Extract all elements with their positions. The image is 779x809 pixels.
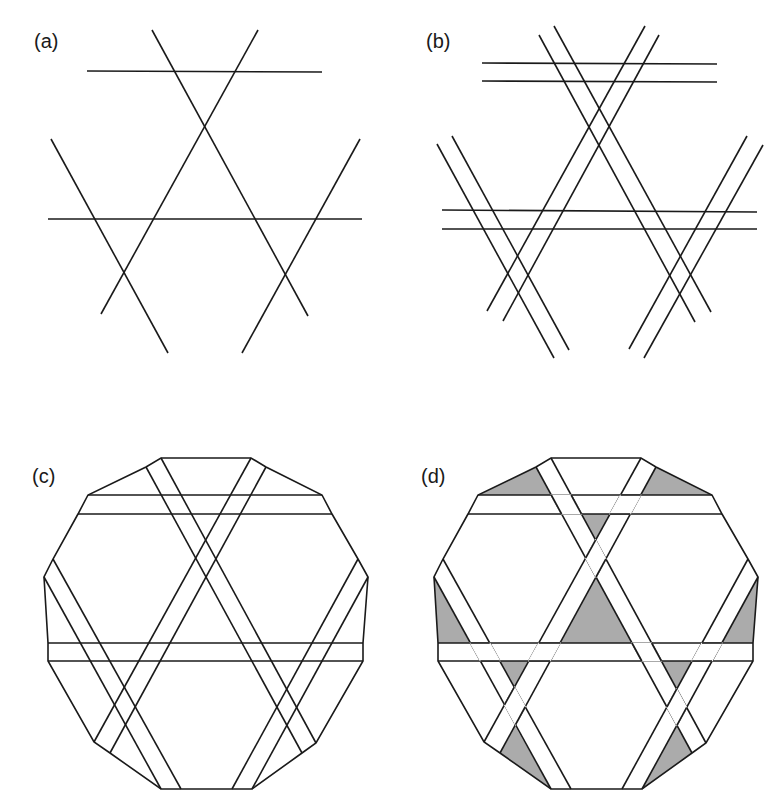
strip-edge-line <box>152 30 308 316</box>
panel-label-a: (a) <box>34 31 58 51</box>
strip-edge-line <box>503 35 659 321</box>
strip-H_top <box>468 495 722 514</box>
panel-label-b: (b) <box>426 31 450 51</box>
strip-edge-line <box>87 71 322 72</box>
panel-d-woven-strips <box>434 458 758 789</box>
panel-c-clipped-strips <box>44 458 368 789</box>
strip-edge-line <box>452 136 569 350</box>
panel-label-d: (d) <box>421 466 445 486</box>
panel-a-line-arrangement <box>48 30 362 353</box>
panel-label-c: (c) <box>32 466 55 486</box>
strip-edge-line <box>629 136 747 349</box>
strip-edge-line <box>487 26 645 311</box>
strip-edge-line <box>442 210 757 212</box>
panel-b-double-line-arrangement <box>437 26 763 358</box>
weave-construction-figure <box>0 0 779 809</box>
strip-edge-line <box>437 144 554 358</box>
strip-edge-line <box>554 26 711 312</box>
strip-edge-line <box>644 145 763 358</box>
strip-edge-line <box>101 30 258 314</box>
strip-edge-line <box>482 63 717 64</box>
strip-edge-line <box>51 139 168 353</box>
strip-edge-line <box>242 139 360 353</box>
strip-edge-line <box>482 81 717 82</box>
